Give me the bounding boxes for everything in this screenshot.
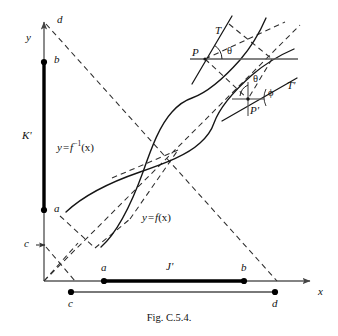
interval-K-group <box>41 59 47 213</box>
point-y-a <box>41 207 47 213</box>
diagonal-y-equals-x <box>44 25 300 281</box>
interval-cd-group <box>68 289 278 295</box>
point-x-a <box>101 278 107 284</box>
label-x-axis-b: b <box>241 262 247 273</box>
label-point-P: P <box>192 47 199 58</box>
angle-arc-theta-at-P-prime <box>240 85 248 96</box>
point-P-dot <box>203 57 206 60</box>
label-x-axis-c: c <box>68 298 73 309</box>
figure-drawing <box>0 0 338 336</box>
dashed-origin-cross <box>44 243 78 281</box>
label-angle-phi-at-P-prime: ϕ <box>268 88 274 99</box>
curve-f <box>101 18 266 247</box>
eqn-inv-arg: (x) <box>81 141 94 153</box>
dashed-p-box-top <box>229 24 272 59</box>
label-y-axis-d: d <box>57 14 63 25</box>
point-x-d <box>272 289 278 295</box>
label-y-axis-a: a <box>54 203 60 214</box>
label-y-axis-b: b <box>54 54 60 65</box>
label-angle-theta-at-P: θ <box>227 46 232 57</box>
label-tangent-T-prime: T' <box>287 80 295 91</box>
label-point-P-prime: P' <box>250 105 259 116</box>
dashed-c-to-c <box>46 247 75 281</box>
angle-arc-theta-at-P <box>214 45 222 59</box>
label-curve-f-inverse: y=f−1(x) <box>57 139 94 153</box>
figure-container: y x d b a c K' a b J' c d P P' T T' θ θ … <box>0 0 338 336</box>
label-angle-theta-at-P-prime: θ <box>253 74 258 85</box>
label-tangent-T: T <box>215 25 221 36</box>
dashed-p-box-left <box>205 59 248 99</box>
eqn-f-equals: = <box>147 211 155 223</box>
x-axis-label: x <box>318 286 323 297</box>
angle-arc-phi-at-P-prime <box>264 89 266 106</box>
figure-caption: Fig. C.5.4. <box>0 312 338 323</box>
eqn-inv-equals: = <box>62 141 70 153</box>
point-x-c <box>68 289 74 295</box>
y-axis-label: y <box>26 32 31 43</box>
eqn-f-arg: (x) <box>158 211 171 223</box>
point-y-b <box>41 59 47 65</box>
label-interval-J: J' <box>166 261 173 272</box>
interval-J-group <box>101 278 247 284</box>
label-x-axis-a: a <box>101 262 107 273</box>
label-interval-K: K' <box>22 130 32 141</box>
label-x-axis-d: d <box>272 298 278 309</box>
label-curve-f: y=f(x) <box>142 211 171 223</box>
point-P-prime-dot <box>246 97 249 100</box>
label-y-axis-c: c <box>24 238 29 249</box>
eqn-inv-exponent: −1 <box>73 139 81 148</box>
curve-f-inverse <box>66 49 294 212</box>
point-x-b <box>241 278 247 284</box>
